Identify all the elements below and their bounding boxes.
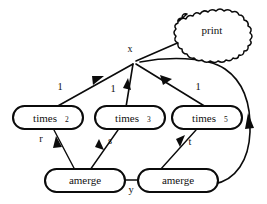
node-times3-label: times (115, 112, 139, 124)
node-times3[interactable]: times 3 (95, 106, 165, 129)
node-times5[interactable]: times 5 (172, 106, 242, 129)
edge-times3-to-amerge-left (90, 130, 118, 170)
fanout-label-x: x (128, 43, 133, 54)
edge-times2-to-amerge-left (53, 130, 75, 170)
arrow-head-s (95, 139, 104, 150)
node-amerge-left-label: amerge (69, 174, 101, 186)
edge-label-one-middle: 1 (110, 83, 115, 94)
node-times5-label: times (192, 112, 216, 124)
node-amerge-right[interactable]: amerge (138, 169, 218, 192)
edge-label-r: r (39, 133, 43, 144)
diagram-canvas: print times 2 times 3 times 5 amerge (0, 0, 267, 204)
arrow-head-times5 (160, 75, 172, 85)
edge-x-to-times2 (56, 64, 133, 107)
node-times5-subscript: 5 (224, 115, 228, 124)
edge-label-t: t (189, 136, 192, 147)
node-print[interactable]: print (174, 9, 252, 63)
node-amerge-left[interactable]: amerge (45, 169, 125, 192)
dataflow-graph-svg: print times 2 times 3 times 5 amerge (0, 0, 267, 204)
arrow-head-t (176, 135, 185, 147)
node-times2-subscript: 2 (65, 115, 69, 124)
node-print-label: print (202, 24, 223, 36)
node-times2-label: times (33, 112, 57, 124)
edge-label-s: s (108, 135, 112, 146)
node-times3-subscript: 3 (147, 115, 151, 124)
edge-label-y: y (128, 184, 134, 195)
edge-x-to-times3 (123, 64, 133, 107)
print-cloud-outline (174, 9, 252, 63)
node-amerge-right-label: amerge (162, 174, 194, 186)
node-times2[interactable]: times 2 (13, 106, 83, 129)
edge-label-one-right: 1 (195, 81, 200, 92)
edge-label-one-left: 1 (57, 81, 62, 92)
